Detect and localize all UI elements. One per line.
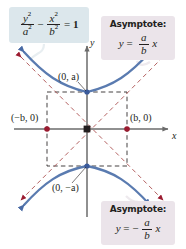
fraction-x-over-b: x2 b2: [47, 12, 60, 37]
fraction-y-over-a: y2 a2: [21, 12, 34, 37]
hyperbola-figure: y2 a2 − x2 b2 = 1 Asymptote: y = a b x: [0, 0, 186, 249]
equals-sign: =: [64, 19, 70, 31]
x-axis-label: x: [172, 130, 176, 141]
asymptote-bottom-title: Asymptote:: [101, 205, 175, 214]
point-minus-b-zero: [44, 126, 50, 132]
label-corner-left: (−b, 0): [11, 112, 38, 123]
asymptote-top-equation: y = a b x: [119, 37, 158, 49]
fraction-a-over-b-top: a b: [139, 31, 149, 56]
asymptote-bottom-sign: −: [132, 223, 138, 235]
fraction-a-over-b-bottom: a b: [142, 216, 152, 241]
asymptote-top-title: Asymptote:: [101, 20, 175, 29]
equation-rhs: 1: [73, 19, 79, 31]
origin-marker: [84, 126, 91, 133]
asymptote-top-box: Asymptote: y = a b x: [101, 16, 175, 60]
minus-operator: −: [37, 19, 43, 31]
label-vertex-top: (0, a): [58, 71, 79, 82]
asymptote-bottom-box: Asymptote: y = − a b x: [101, 201, 175, 245]
label-corner-right: (b, 0): [130, 112, 152, 123]
equation-text: y2 a2 − x2 b2 = 1: [20, 17, 79, 29]
y-axis-label: y: [90, 37, 94, 48]
asymptote-bottom-equation: y = − a b x: [116, 222, 161, 234]
standard-form-equation-box: y2 a2 − x2 b2 = 1: [9, 7, 89, 43]
callout-leader-lines: [30, 44, 44, 60]
point-b-zero: [124, 126, 130, 132]
label-vertex-bottom: (0, −a): [52, 182, 79, 193]
